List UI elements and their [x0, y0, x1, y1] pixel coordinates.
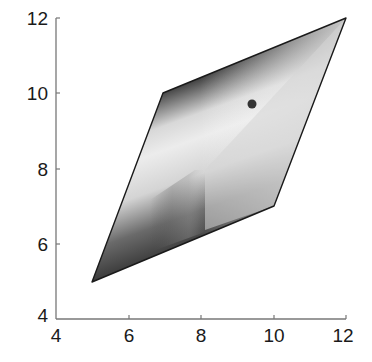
y-axis: 12 10 8 6 4	[27, 8, 60, 326]
x-tick-label: 12	[332, 325, 353, 346]
x-axis: 4 6 8 10 12	[51, 315, 354, 346]
shaded-region	[80, 10, 360, 300]
y-tick-label: 10	[27, 83, 48, 104]
chart: 12 10 8 6 4 4 6 8 10 12	[0, 0, 372, 362]
x-tick-label: 4	[51, 325, 62, 346]
y-tick-label: 8	[37, 159, 48, 180]
x-tick-label: 8	[196, 325, 207, 346]
y-tick-label: 6	[37, 234, 48, 255]
x-tick-label: 10	[263, 325, 284, 346]
data-point	[248, 100, 257, 109]
y-tick-label: 12	[27, 8, 48, 29]
y-tick-label: 4	[37, 305, 48, 326]
x-tick-label: 6	[124, 325, 135, 346]
